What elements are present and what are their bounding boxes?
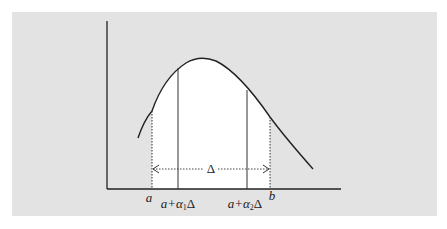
label-b: b bbox=[269, 188, 276, 203]
label-a: a bbox=[146, 190, 153, 205]
label-point2: a+α2Δ bbox=[228, 196, 262, 212]
label-point1: a+α1Δ bbox=[161, 196, 195, 212]
integration-diagram: Δ a a+α1Δ a+α2Δ b bbox=[0, 0, 447, 229]
interval-label: Δ bbox=[207, 161, 215, 176]
